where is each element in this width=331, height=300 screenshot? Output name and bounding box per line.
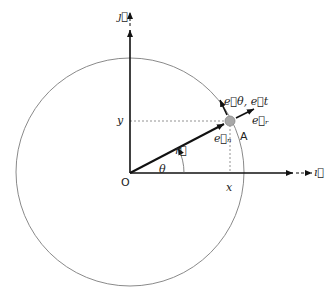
theta-label: θ	[159, 163, 166, 176]
polar-diagram: ȷ⃗ ı⃗ O x y θ r⃗ e⃗ₙ e⃗θ, e⃗t e⃗ᵣ A	[0, 0, 331, 300]
j-unit-label: ȷ⃗	[116, 10, 128, 23]
point-a	[225, 116, 235, 126]
x-label: x	[226, 181, 233, 194]
origin-label: O	[121, 176, 130, 189]
e-n-label: e⃗ₙ	[214, 132, 232, 145]
e-theta-t-label: e⃗θ, e⃗t	[224, 95, 269, 108]
i-unit-label: ı⃗	[314, 166, 324, 179]
y-label: y	[116, 114, 124, 127]
e-r-label: e⃗ᵣ	[252, 114, 269, 127]
point-a-label: A	[240, 130, 248, 143]
r-vector-label: r⃗	[175, 144, 187, 157]
